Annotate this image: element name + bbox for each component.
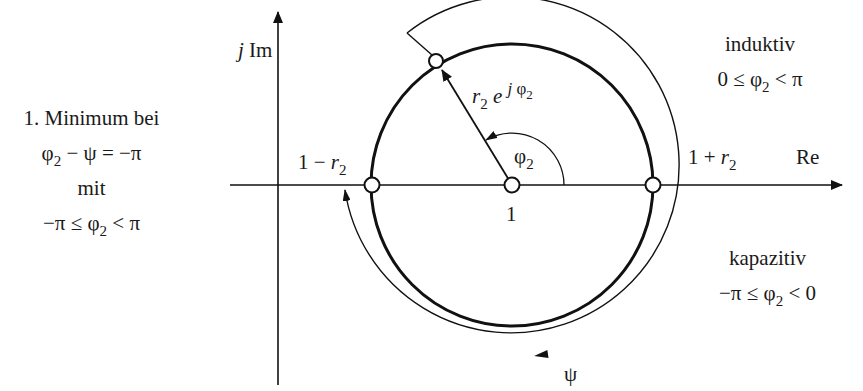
point-center: [505, 178, 520, 193]
inductive-region-label: induktiv 0 ≤ φ2 < π: [690, 34, 830, 90]
cond-sub: 2: [762, 79, 770, 95]
left-point-label: 1 − r2: [298, 152, 347, 173]
exp-j: j: [508, 79, 513, 98]
right-sub: 2: [729, 157, 737, 173]
r-sub: 2: [480, 96, 488, 112]
center-point-label: 1: [506, 204, 517, 225]
phasor-label: r2 e j φ2: [472, 86, 533, 107]
cond-post: < 0: [783, 281, 816, 305]
phi2-angle-label: φ2: [514, 146, 534, 167]
left-note-line2: φ2 − ψ = −π: [4, 143, 179, 164]
left-prefix: 1 −: [298, 150, 331, 174]
psi-sweep-arc: [345, 0, 679, 333]
capacitive-condition: −π ≤ φ2 < 0: [695, 283, 840, 304]
phi-symbol: φ: [514, 144, 526, 168]
cond-sub: 2: [776, 293, 784, 309]
line4-pre: −π ≤ φ: [43, 211, 100, 235]
im-text: Im: [249, 38, 272, 62]
phi-sub: 2: [54, 153, 62, 169]
j-symbol: j: [238, 38, 244, 62]
line4-post: < π: [107, 211, 140, 235]
point-on-circle: [429, 54, 443, 68]
psi-arc-start-tick: [407, 33, 432, 55]
e-symbol: e: [493, 84, 502, 108]
left-var: r: [331, 150, 339, 174]
right-point-label: 1 + r2: [688, 147, 737, 168]
point-left-intersection: [365, 178, 380, 193]
imaginary-axis-label: j Im: [238, 40, 272, 61]
real-axis-label: Re: [796, 147, 819, 168]
inductive-condition: 0 ≤ φ2 < π: [690, 69, 830, 90]
r-symbol: r: [472, 84, 480, 108]
cond-pre: 0 ≤ φ: [717, 67, 762, 91]
right-prefix: 1 +: [688, 145, 721, 169]
left-sub: 2: [339, 162, 347, 178]
line2-rest: − ψ = −π: [61, 141, 141, 165]
psi-mid-arrow-icon: [534, 350, 549, 360]
psi-label: ψ: [564, 364, 577, 385]
left-note: 1. Minimum bei φ2 − ψ = −π mit −π ≤ φ2 <…: [4, 108, 179, 234]
line4-sub: 2: [100, 223, 108, 239]
left-note-line4: −π ≤ φ2 < π: [4, 213, 179, 234]
phi-symbol: φ: [42, 141, 54, 165]
cond-post: < π: [770, 67, 803, 91]
right-var: r: [721, 145, 729, 169]
left-note-line3: mit: [4, 178, 179, 199]
inductive-title: induktiv: [690, 34, 830, 55]
phi-sub: 2: [526, 156, 534, 172]
point-right-intersection: [646, 178, 661, 193]
exp-phi: φ: [517, 79, 527, 98]
left-note-line1: 1. Minimum bei: [4, 108, 179, 129]
capacitive-region-label: kapazitiv −π ≤ φ2 < 0: [695, 248, 840, 304]
cond-pre: −π ≤ φ: [719, 281, 776, 305]
exp-sub: 2: [526, 87, 533, 102]
capacitive-title: kapazitiv: [695, 248, 840, 269]
